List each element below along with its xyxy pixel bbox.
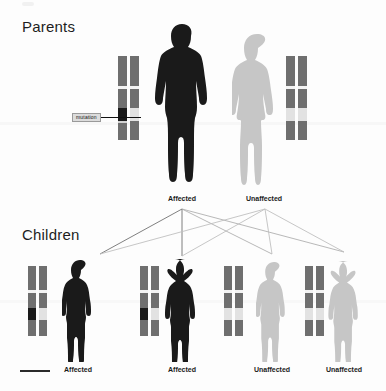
father-status-caption: Affected bbox=[168, 195, 196, 202]
mutation-band bbox=[140, 308, 148, 320]
child2-chromosome-normal bbox=[151, 266, 159, 336]
child1-chromosome-pair bbox=[28, 266, 47, 336]
child1-silhouette bbox=[62, 260, 98, 362]
child4-silhouette bbox=[328, 260, 368, 362]
father-chromosome-normal bbox=[130, 56, 139, 140]
child3-chromosome-pair bbox=[224, 266, 243, 336]
child1-chromosome-normal bbox=[39, 266, 47, 336]
child3-chromosome-normal-2 bbox=[235, 266, 243, 336]
scan-artifact-top bbox=[22, 2, 34, 6]
mutation-leader-line bbox=[101, 117, 141, 119]
mother-chromosome-pair bbox=[286, 56, 307, 140]
child2-status-caption: Affected bbox=[168, 366, 196, 373]
father-chromosome-mutant bbox=[118, 56, 127, 140]
parents-section-title: Parents bbox=[22, 18, 75, 35]
scale-bar bbox=[20, 370, 50, 372]
inheritance-diagram: Parents Children bbox=[0, 0, 386, 391]
child3-silhouette bbox=[256, 262, 292, 362]
mother-silhouette bbox=[232, 34, 282, 192]
child4-chromosome-normal-1 bbox=[305, 266, 313, 336]
mutation-band bbox=[28, 308, 36, 320]
mother-chromosome-normal-1 bbox=[286, 56, 295, 140]
mutation-callout: mutation bbox=[72, 113, 141, 122]
child2-chromosome-mutant bbox=[140, 266, 148, 336]
child2-chromosome-pair bbox=[140, 266, 159, 336]
father-silhouette bbox=[155, 24, 209, 192]
child4-chromosome-normal-2 bbox=[316, 266, 324, 336]
father-chromosome-pair bbox=[118, 56, 139, 140]
child2-silhouette bbox=[165, 258, 205, 362]
mutation-label: mutation bbox=[72, 113, 101, 122]
mother-status-caption: Unaffected bbox=[246, 195, 282, 202]
child4-status-caption: Unaffected bbox=[326, 366, 362, 373]
child1-chromosome-mutant bbox=[28, 266, 36, 336]
child3-chromosome-normal-1 bbox=[224, 266, 232, 336]
children-section-title: Children bbox=[22, 226, 79, 243]
mother-chromosome-normal-2 bbox=[298, 56, 307, 140]
child3-status-caption: Unaffected bbox=[254, 366, 290, 373]
child4-chromosome-pair bbox=[305, 266, 324, 336]
child1-status-caption: Affected bbox=[64, 366, 92, 373]
